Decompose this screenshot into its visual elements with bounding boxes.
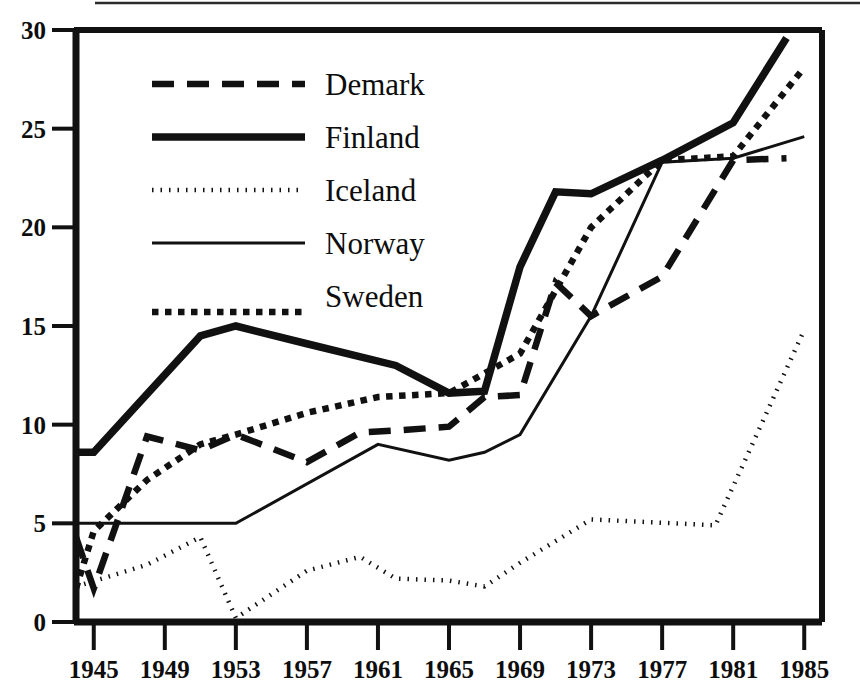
series-line-norway [76, 137, 804, 524]
x-tick-label: 1977 [637, 656, 687, 682]
y-tick-label: 0 [34, 609, 47, 636]
y-tick-label: 15 [21, 313, 46, 340]
data-series-layer [76, 38, 804, 618]
series-line-iceland [76, 330, 804, 618]
legend-label-iceland: Iceland [325, 173, 417, 208]
x-tick-label: 1969 [495, 656, 545, 682]
y-tick-label: 20 [21, 214, 46, 241]
y-tick-label: 25 [21, 116, 46, 143]
x-tick-label: 1949 [140, 656, 190, 682]
x-tick-label: 1961 [353, 656, 403, 682]
chart-legend: DemarkFinlandIcelandNorwaySweden [152, 67, 425, 314]
y-tick-label: 10 [21, 412, 46, 439]
x-tick-label: 1957 [282, 656, 332, 682]
y-axis-ticks: 051015202530 [21, 17, 76, 636]
y-tick-label: 30 [21, 17, 46, 44]
x-tick-label: 1965 [424, 656, 474, 682]
plot-frame [74, 30, 822, 622]
line-chart: 051015202530 194519491953195719611965196… [0, 0, 860, 682]
x-tick-label: 1953 [211, 656, 261, 682]
x-tick-label: 1945 [69, 656, 119, 682]
legend-label-norway: Norway [325, 226, 425, 261]
x-tick-label: 1985 [779, 656, 829, 682]
legend-label-demark: Demark [325, 67, 425, 102]
legend-label-finland: Finland [325, 120, 420, 155]
y-tick-label: 5 [34, 510, 47, 537]
legend-label-sweden: Sweden [325, 279, 424, 314]
x-tick-label: 1981 [708, 656, 758, 682]
x-axis-ticks: 1945194919531957196119651969197319771981… [69, 622, 829, 682]
chart-canvas: 051015202530 194519491953195719611965196… [0, 0, 860, 682]
series-line-finland [76, 38, 786, 452]
x-tick-label: 1973 [566, 656, 616, 682]
